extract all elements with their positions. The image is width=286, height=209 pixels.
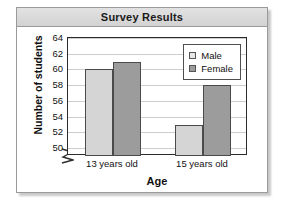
y-tick-label: 62 xyxy=(52,47,63,58)
x-axis-title: Age xyxy=(67,175,247,187)
card-title-bar: Survey Results xyxy=(17,8,267,27)
chart-card: Survey Results Number of students 505254… xyxy=(16,7,268,193)
legend-item-female: Female xyxy=(189,62,233,75)
legend-label-male: Male xyxy=(201,50,222,61)
bar-male-0 xyxy=(85,69,113,156)
y-tick-label: 56 xyxy=(52,94,63,105)
y-tick-label: 52 xyxy=(52,126,63,137)
x-tick-label: 13 years old xyxy=(86,158,138,169)
y-axis-tick-labels: 5052545658606264 xyxy=(35,37,63,155)
legend-swatch-female-icon xyxy=(189,65,196,72)
legend-label-female: Female xyxy=(201,63,233,74)
bar-female-1 xyxy=(203,85,231,156)
y-tick-label: 64 xyxy=(52,32,63,43)
x-axis-tick-labels: 13 years old15 years old xyxy=(67,158,247,172)
x-tick-label: 15 years old xyxy=(176,158,228,169)
legend-item-male: Male xyxy=(189,49,233,62)
chart-area: Number of students 5052545658606264 Male… xyxy=(17,27,267,192)
legend-swatch-male-icon xyxy=(189,52,196,59)
chart-title: Survey Results xyxy=(101,11,183,23)
chart-legend: Male Female xyxy=(183,44,241,80)
plot-area: Male Female xyxy=(67,37,247,155)
y-tick-label: 60 xyxy=(52,63,63,74)
y-tick-label: 54 xyxy=(52,110,63,121)
bar-male-1 xyxy=(175,125,203,156)
y-tick-label: 58 xyxy=(52,79,63,90)
bar-female-0 xyxy=(113,62,141,156)
chart-screenshot: Survey Results Number of students 505254… xyxy=(0,0,286,209)
